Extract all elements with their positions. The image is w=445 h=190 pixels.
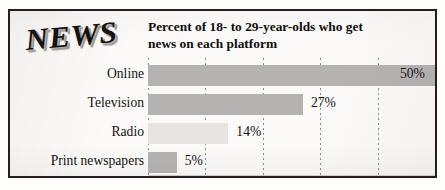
bar-track: 14% xyxy=(148,120,435,149)
bar-fill xyxy=(148,152,177,173)
bar-fill xyxy=(148,65,435,86)
bar-track: 5% xyxy=(148,149,435,178)
bar-value-label: 50% xyxy=(400,66,425,82)
gridline xyxy=(435,58,436,177)
bar-fill xyxy=(148,123,228,144)
chart-title: Percent of 18- to 29-year-olds who get n… xyxy=(148,19,433,52)
bar-row: Print newspapers5% xyxy=(10,149,435,178)
chart-page: NEWS Percent of 18- to 29-year-olds who … xyxy=(0,0,445,190)
figure-frame: NEWS Percent of 18- to 29-year-olds who … xyxy=(8,9,437,178)
bar-value-label: 14% xyxy=(236,124,261,140)
chart-title-line-2: news on each platform xyxy=(148,36,433,53)
chart-title-line-1: Percent of 18- to 29-year-olds who get xyxy=(148,19,433,36)
bar-track: 27% xyxy=(148,91,435,120)
bar-fill xyxy=(148,94,303,115)
bar-category-label: Print newspapers xyxy=(20,153,144,169)
bar-row: Radio14% xyxy=(10,120,435,149)
bar-row: Television27% xyxy=(10,91,435,120)
axis-baseline xyxy=(148,175,435,176)
plot-area: Online50%Television27%Radio14%Print news… xyxy=(10,56,435,178)
bar-track: 50% xyxy=(148,62,435,91)
bar-category-label: Online xyxy=(20,66,144,82)
news-logo: NEWS xyxy=(21,20,143,62)
bar-category-label: Television xyxy=(20,95,144,111)
bar-row: Online50% xyxy=(10,62,435,91)
bar-value-label: 5% xyxy=(185,153,203,169)
news-logo-text: NEWS xyxy=(24,15,119,57)
bar-category-label: Radio xyxy=(20,124,144,140)
bar-value-label: 27% xyxy=(311,95,336,111)
